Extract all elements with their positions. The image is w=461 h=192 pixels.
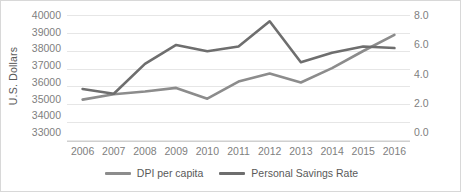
y-tick-left: 40000 (32, 11, 61, 20)
y-axis-ticks-left: 4000039000380003700036000350003400033000 (21, 15, 61, 141)
legend-item[interactable]: Personal Savings Rate (219, 167, 358, 179)
x-tick: 2010 (192, 145, 223, 157)
y-tick-right: 6.0 (414, 40, 429, 49)
y-tick-left: 35000 (32, 95, 61, 104)
chart-legend: DPI per capitaPersonal Savings Rate (1, 167, 461, 179)
chart-container: U.S. Dollars 400003900038000370003600035… (0, 0, 461, 192)
y-tick-left: 36000 (32, 78, 61, 87)
legend-label: Personal Savings Rate (251, 167, 358, 179)
y-tick-right: 4.0 (414, 70, 429, 79)
y-tick-right: 0.0 (414, 128, 429, 137)
plot-area (67, 15, 410, 141)
x-tick: 2009 (161, 145, 192, 157)
series-lines (67, 15, 410, 141)
y-axis-title-left: U.S. Dollars (3, 1, 23, 151)
y-tick-left: 33000 (32, 128, 61, 137)
y-axis-ticks-right: 8.06.04.02.00.0 (414, 15, 454, 141)
y-tick-right: 2.0 (414, 99, 429, 108)
y-tick-right: 8.0 (414, 11, 429, 20)
y-tick-left: 37000 (32, 61, 61, 70)
x-tick: 2014 (317, 145, 348, 157)
legend-item[interactable]: DPI per capita (105, 167, 204, 179)
legend-swatch (105, 172, 131, 175)
x-tick: 2016 (379, 145, 410, 157)
y-tick-left: 38000 (32, 44, 61, 53)
x-tick: 2013 (285, 145, 316, 157)
legend-label: DPI per capita (137, 167, 204, 179)
x-tick: 2008 (129, 145, 160, 157)
x-tick: 2015 (348, 145, 379, 157)
legend-swatch (219, 172, 245, 175)
series-line (83, 35, 395, 100)
x-tick: 2011 (223, 145, 254, 157)
x-axis-line (67, 141, 410, 142)
x-tick: 2007 (98, 145, 129, 157)
x-tick: 2012 (254, 145, 285, 157)
x-tick: 2006 (67, 145, 98, 157)
y-axis-title-left-text: U.S. Dollars (7, 47, 19, 105)
y-tick-left: 39000 (32, 28, 61, 37)
x-axis-ticks: 2006200720082009201020112012201320142015… (67, 145, 410, 157)
y-tick-left: 34000 (32, 111, 61, 120)
